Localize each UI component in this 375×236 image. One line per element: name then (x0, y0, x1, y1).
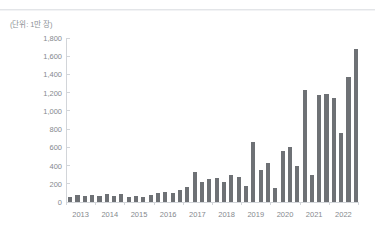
x-axis-tick-mark (300, 202, 301, 205)
x-axis: 2013201420152016201720182019202020212022 (66, 205, 358, 227)
bar (324, 94, 328, 202)
bar (193, 172, 197, 202)
y-axis-tick-label: 1,600 (43, 52, 67, 61)
bar (229, 175, 233, 202)
bar (222, 182, 226, 202)
bar (281, 151, 285, 202)
x-axis-tick-label: 2022 (335, 210, 352, 219)
bar (185, 187, 189, 202)
bar (215, 178, 219, 202)
top-divider-secondary (0, 10, 375, 11)
bar (259, 170, 263, 202)
x-axis-tick-label: 2019 (247, 210, 264, 219)
y-axis-tick-label: 1,800 (43, 34, 67, 43)
y-axis-tick-label: 600 (49, 143, 67, 152)
y-axis-tick-label: 1,200 (43, 88, 67, 97)
x-axis-tick-mark (270, 202, 271, 205)
bar (149, 195, 153, 202)
bar (317, 95, 321, 202)
x-axis-tick-label: 2020 (277, 210, 294, 219)
bar (156, 193, 160, 202)
bar (251, 142, 255, 202)
y-axis-tick-label: 800 (49, 125, 67, 134)
x-axis-tick-label: 2018 (218, 210, 235, 219)
bar (134, 196, 138, 202)
plot-area: 02004006008001,0001,2001,4001,6001,800 (66, 38, 359, 203)
bar (266, 163, 270, 202)
bar (83, 196, 87, 202)
bar (68, 197, 72, 202)
bar-series (67, 38, 359, 202)
x-axis-tick-mark (212, 202, 213, 205)
bar (207, 179, 211, 202)
bar (273, 188, 277, 202)
bar (75, 195, 79, 202)
bar (288, 147, 292, 202)
x-axis-tick-label: 2017 (189, 210, 206, 219)
y-axis-tick-label: 400 (49, 161, 67, 170)
x-axis-tick-label: 2014 (101, 210, 118, 219)
bar (346, 77, 350, 202)
x-axis-tick-mark (358, 202, 359, 205)
x-axis-tick-mark (154, 202, 155, 205)
bar (90, 195, 94, 202)
unit-label: (단위: 1만 장) (10, 18, 52, 29)
bar (354, 49, 358, 202)
x-axis-tick-label: 2016 (160, 210, 177, 219)
bar (244, 186, 248, 202)
x-axis-tick-mark (124, 202, 125, 205)
bar (310, 175, 314, 202)
x-axis-tick-mark (66, 202, 67, 205)
x-axis-tick-mark (183, 202, 184, 205)
bar (295, 166, 299, 202)
bar (105, 194, 109, 202)
bar (112, 196, 116, 202)
x-axis-tick-label: 2013 (72, 210, 89, 219)
bar (127, 197, 131, 202)
x-axis-tick-label: 2015 (131, 210, 148, 219)
bar (200, 182, 204, 202)
bar (303, 90, 307, 202)
bar (141, 197, 145, 202)
y-axis-tick-label: 1,000 (43, 106, 67, 115)
y-axis-tick-label: 1,400 (43, 70, 67, 79)
bar (178, 190, 182, 202)
x-axis-tick-mark (329, 202, 330, 205)
x-axis-tick-label: 2021 (306, 210, 323, 219)
bar (332, 98, 336, 202)
bar (97, 196, 101, 202)
bar (339, 133, 343, 202)
bar (171, 193, 175, 202)
bar (163, 192, 167, 202)
x-axis-tick-mark (241, 202, 242, 205)
bar (119, 194, 123, 202)
bar (237, 177, 241, 202)
x-axis-tick-mark (95, 202, 96, 205)
chart-page: (단위: 1만 장) 02004006008001,0001,2001,4001… (0, 0, 375, 236)
y-axis-tick-label: 200 (49, 179, 67, 188)
